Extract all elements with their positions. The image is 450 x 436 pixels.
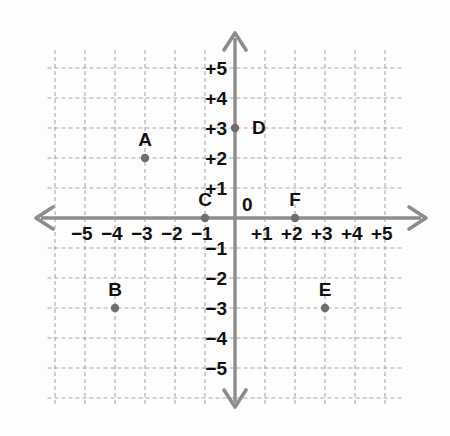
x-axis-tick-label: −3 bbox=[131, 223, 153, 244]
point-label-d: D bbox=[252, 117, 266, 138]
origin-label-group: 0 bbox=[242, 194, 253, 215]
y-axis-tick-label: +4 bbox=[205, 88, 227, 109]
x-axis-tick-label: +1 bbox=[251, 223, 273, 244]
plotted-point-e[interactable] bbox=[321, 304, 329, 312]
point-label-c: C bbox=[198, 189, 212, 210]
x-axis-tick-label: −5 bbox=[71, 223, 93, 244]
plotted-point-b[interactable] bbox=[111, 304, 119, 312]
y-axis-tick-label: −1 bbox=[205, 238, 227, 259]
x-axis-tick-label: −4 bbox=[101, 223, 123, 244]
plotted-point-a[interactable] bbox=[141, 154, 149, 162]
point-label-e: E bbox=[319, 279, 332, 300]
y-axis-tick-label: −4 bbox=[205, 328, 227, 349]
y-axis-tick-label: +5 bbox=[205, 58, 227, 79]
plotted-point-c[interactable] bbox=[201, 214, 209, 222]
point-label-a: A bbox=[138, 129, 152, 150]
axes bbox=[36, 33, 426, 407]
coordinate-plane-canvas: −5−4−3−2−1+1+2+3+4+5+5+4+3+2+1−1−2−3−4−5… bbox=[0, 0, 450, 436]
y-axis-tick-label: +3 bbox=[205, 118, 227, 139]
y-axis-tick-label: −2 bbox=[205, 268, 227, 289]
point-label-b: B bbox=[108, 279, 122, 300]
plotted-point-d[interactable] bbox=[231, 124, 239, 132]
x-axis-tick-label: +3 bbox=[311, 223, 333, 244]
y-axis-tick-label: −3 bbox=[205, 298, 227, 319]
plotted-point-f[interactable] bbox=[291, 214, 299, 222]
y-axis-tick-label: +2 bbox=[205, 148, 227, 169]
x-axis-tick-label: +5 bbox=[371, 223, 393, 244]
coordinate-plane-figure: −5−4−3−2−1+1+2+3+4+5+5+4+3+2+1−1−2−3−4−5… bbox=[0, 0, 450, 436]
x-axis-tick-label: −2 bbox=[161, 223, 183, 244]
x-axis-tick-label: +4 bbox=[341, 223, 363, 244]
y-axis-tick-label: −5 bbox=[205, 358, 227, 379]
origin-label: 0 bbox=[242, 194, 253, 215]
x-axis-tick-label: +2 bbox=[281, 223, 303, 244]
point-label-f: F bbox=[289, 189, 301, 210]
